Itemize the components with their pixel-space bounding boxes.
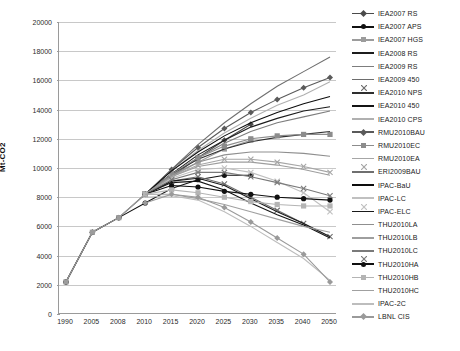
data-point-marker (63, 279, 68, 284)
legend-label: LBNL CIS (378, 312, 410, 321)
legend-item-iea2008-rs[interactable]: IEA2008 RS (352, 47, 458, 60)
legend-item-ipac-elc[interactable]: IPAC-ELC (352, 205, 458, 218)
legend-item-rmu2010ea[interactable]: RMU2010EA (352, 152, 458, 165)
legend-swatch-icon (352, 246, 374, 256)
x-axis-tick-label: 2025 (216, 318, 232, 326)
legend-swatch-icon (352, 48, 374, 58)
legend-label: IPAC-ELC (378, 207, 411, 216)
y-axis-tick-label: 4000 (36, 252, 52, 259)
legend-swatch-icon (352, 114, 374, 124)
legend-item-iea2007-rs[interactable]: IEA2007 RS (352, 7, 458, 20)
legend-item-ipac-2c[interactable]: IPAC-2C (352, 297, 458, 310)
legend-swatch-icon (352, 312, 374, 322)
x-axis-tick-label: 1990 (57, 318, 73, 326)
legend-label: IEA2007 RS (378, 9, 418, 18)
legend-swatch-icon (352, 154, 374, 164)
legend-item-thu2010la[interactable]: THU2010LA (352, 218, 458, 231)
legend-swatch-icon (352, 101, 374, 111)
legend-item-iea2007-aps[interactable]: IEA2007 APS (352, 20, 458, 33)
legend-label: IEA2007 HGS (378, 35, 423, 44)
y-axis-tick-label: 6000 (36, 223, 52, 230)
legend-item-iea2010-450[interactable]: IEA2010 450 (352, 99, 458, 112)
data-point-marker (327, 203, 332, 208)
legend-label: IEA2009 RS (378, 62, 418, 71)
y-axis-tick-mark (57, 314, 60, 315)
legend-label: IEA2008 RS (378, 49, 418, 58)
legend-item-iea2009-rs[interactable]: IEA2009 RS (352, 60, 458, 73)
data-point-marker (301, 203, 306, 208)
legend-item-iea2009-450[interactable]: IEA2009 450 (352, 73, 458, 86)
x-axis: 1990200520082010201520202025203020352040… (58, 316, 336, 334)
data-point-marker (248, 192, 253, 197)
legend-item-thu2010lc[interactable]: THU2010LC (352, 244, 458, 257)
legend-item-rmu2010bau[interactable]: RMU2010BAU (352, 126, 458, 139)
data-point-marker (195, 155, 200, 160)
legend-label: IEA2007 APS (378, 22, 422, 31)
legend-swatch-icon (352, 35, 374, 45)
y-axis: Mt-CO2 020004000600080001000012000140001… (0, 22, 56, 314)
legend-item-rmu2010ec[interactable]: RMU2010EC (352, 139, 458, 152)
data-point-marker (142, 200, 148, 206)
data-point-marker (275, 195, 280, 200)
legend-label: IEA2010 NPS (378, 88, 422, 97)
data-point-marker (248, 199, 253, 204)
legend-item-iea2007-hgs[interactable]: IEA2007 HGS (352, 33, 458, 46)
legend-item-iea2010-nps[interactable]: IEA2010 NPS (352, 86, 458, 99)
y-axis-tick-label: 20000 (33, 19, 52, 26)
x-axis-tick-label: 2030 (242, 318, 258, 326)
x-axis-tick-label: 2005 (84, 318, 100, 326)
data-point-marker (274, 96, 280, 102)
legend-swatch-icon (352, 259, 374, 269)
plot-area (58, 22, 336, 314)
x-axis-tick-label: 2020 (189, 318, 205, 326)
legend-label: THU2010HB (378, 273, 419, 282)
legend-label: IEA2009 450 (378, 75, 420, 84)
y-axis-tick-label: 0 (48, 311, 52, 318)
legend-item-thu2010hb[interactable]: THU2010HB (352, 271, 458, 284)
x-axis-tick-label: 2035 (268, 318, 284, 326)
data-point-marker (248, 110, 254, 116)
legend-label: THU2010LC (378, 246, 418, 255)
data-point-marker (90, 230, 95, 235)
data-point-marker (301, 132, 306, 137)
legend-swatch-icon (352, 180, 374, 190)
y-axis-tick-label: 2000 (36, 281, 52, 288)
legend-label: THU2010LB (378, 233, 417, 242)
data-point-marker (327, 74, 333, 80)
x-axis-tick-label: 2050 (321, 318, 337, 326)
legend-item-thu2010lb[interactable]: THU2010LB (352, 231, 458, 244)
legend-label: IPAC-2C (378, 299, 406, 308)
y-axis-tick-label: 14000 (33, 106, 52, 113)
legend-item-ipac-bau[interactable]: IPAC-BaU (352, 178, 458, 191)
y-axis-tick-label: 8000 (36, 194, 52, 201)
legend-label: THU2010LA (378, 220, 417, 229)
chart-figure: Mt-CO2 020004000600080001000012000140001… (0, 0, 460, 351)
legend-label: IPAC-BaU (378, 181, 411, 190)
data-point-marker (275, 133, 280, 138)
legend-label: IPAC-LC (378, 194, 406, 203)
data-point-marker (248, 136, 253, 141)
data-point-marker (222, 189, 227, 194)
y-axis-title: Mt-CO2 (0, 142, 7, 172)
data-point-marker (301, 85, 307, 91)
legend-item-eri2009bau[interactable]: ERI2009BAU (352, 165, 458, 178)
data-point-marker (222, 195, 227, 200)
y-axis-tick-label: 16000 (33, 77, 52, 84)
legend-item-iea2010-cps[interactable]: IEA2010 CPS (352, 113, 458, 126)
legend-swatch-icon (352, 61, 374, 71)
legend-label: RMU2010EC (378, 141, 420, 150)
legend-item-thu2010hc[interactable]: THU2010HC (352, 284, 458, 297)
legend-item-ipac-lc[interactable]: IPAC-LC (352, 192, 458, 205)
data-point-marker (248, 219, 254, 225)
x-axis-tick-label: 2010 (136, 318, 152, 326)
x-axis-tick-label: 2008 (110, 318, 126, 326)
chart-legend: IEA2007 RSIEA2007 APSIEA2007 HGSIEA2008 … (352, 7, 458, 324)
legend-item-lbnl-cis[interactable]: LBNL CIS (352, 310, 458, 323)
data-point-marker (327, 209, 332, 214)
legend-swatch-icon (352, 220, 374, 230)
legend-item-thu2010ha[interactable]: THU2010HA (352, 258, 458, 271)
legend-swatch-icon (352, 272, 374, 282)
legend-label: IEA2010 CPS (378, 115, 422, 124)
legend-swatch-icon (352, 88, 374, 98)
data-point-marker (275, 202, 280, 207)
